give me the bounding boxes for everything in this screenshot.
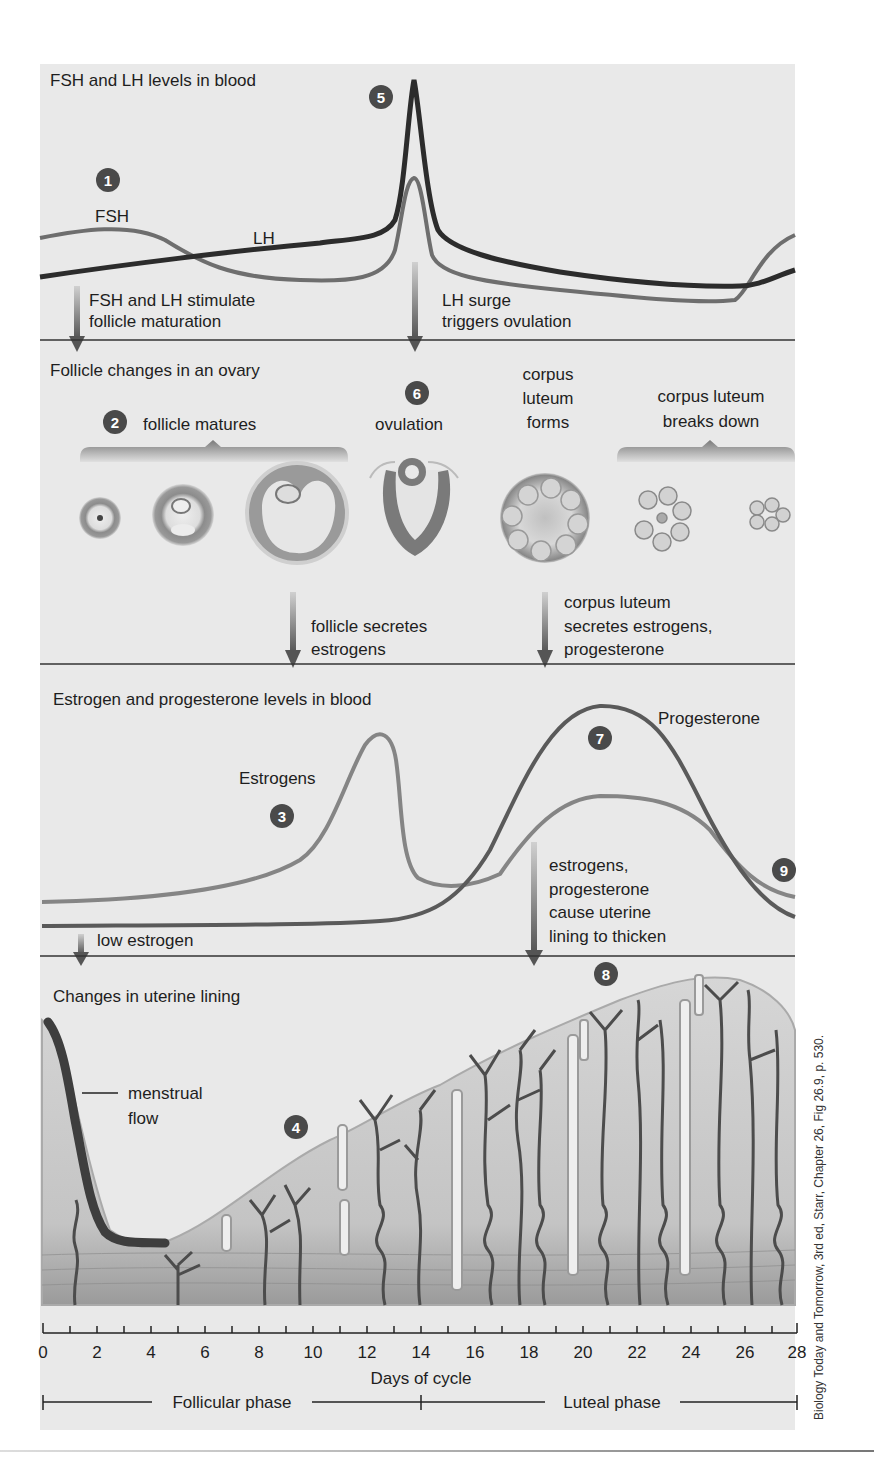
phase-bar xyxy=(43,1395,797,1410)
step-marker-8: 8 xyxy=(594,962,618,986)
lh-label: LH xyxy=(253,229,275,248)
bracket-follicle-matures xyxy=(80,440,348,462)
menstrual-label-1: menstrual xyxy=(128,1084,203,1103)
tick-label: 6 xyxy=(200,1343,209,1362)
low-estrogen-label: low estrogen xyxy=(97,931,193,950)
lh-surge-text-1: LH surge xyxy=(442,291,511,310)
step-marker-7: 7 xyxy=(588,726,612,750)
cl-breaks-label-1: corpus luteum xyxy=(658,387,765,406)
follicular-phase-label: Follicular phase xyxy=(172,1393,291,1412)
cl-forms-label-1: corpus xyxy=(522,365,573,384)
svg-text:2: 2 xyxy=(111,414,119,431)
luteal-phase-label: Luteal phase xyxy=(563,1393,660,1412)
step-marker-3: 3 xyxy=(270,804,294,828)
down-arrow-icon xyxy=(531,842,537,952)
step-marker-6: 6 xyxy=(405,381,429,405)
arrowhead-icon xyxy=(73,952,89,966)
arrowhead-icon xyxy=(285,650,301,668)
lh-surge-text-2: triggers ovulation xyxy=(442,312,571,331)
tick-label: 14 xyxy=(412,1343,431,1362)
fsh-lh-arrow-text-2: follicle maturation xyxy=(89,312,221,331)
down-arrow-icon xyxy=(74,286,80,338)
down-arrow-icon xyxy=(290,592,296,652)
ovary-title: Follicle changes in an ovary xyxy=(50,361,260,380)
menstrual-label-2: flow xyxy=(128,1109,159,1128)
progesterone-curve xyxy=(42,706,795,926)
thicken-text-2: progesterone xyxy=(549,880,649,899)
uterus-title: Changes in uterine lining xyxy=(53,987,240,1006)
tick-label: 12 xyxy=(358,1343,377,1362)
tick-label: 2 xyxy=(92,1343,101,1362)
down-arrow-icon xyxy=(542,592,548,652)
estrogens-label: Estrogens xyxy=(239,769,316,788)
figure-credit: Biology Today and Tomorrow, 3rd ed, Star… xyxy=(812,1035,826,1420)
follicle-secretes-text-2: estrogens xyxy=(311,640,386,659)
svg-text:7: 7 xyxy=(596,730,604,747)
tick-label: 0 xyxy=(38,1343,47,1362)
tick-label: 20 xyxy=(574,1343,593,1362)
tick-label: 22 xyxy=(628,1343,647,1362)
cl-secretes-text-1: corpus luteum xyxy=(564,593,671,612)
tick-label: 24 xyxy=(682,1343,701,1362)
arrowhead-icon xyxy=(525,950,543,966)
fsh-lh-title: FSH and LH levels in blood xyxy=(50,71,256,90)
step-marker-4: 4 xyxy=(284,1115,308,1139)
down-arrow-icon xyxy=(78,934,84,954)
step-marker-5: 5 xyxy=(369,85,393,109)
step-marker-9: 9 xyxy=(772,858,796,882)
follicle-matures-label: follicle matures xyxy=(143,415,256,434)
days-axis xyxy=(43,1323,797,1333)
svg-text:8: 8 xyxy=(602,966,610,983)
cl-secretes-text-2: secretes estrogens, xyxy=(564,617,712,636)
estrogens-curve xyxy=(42,734,795,902)
secondary-follicle xyxy=(152,484,214,546)
bottom-rule xyxy=(0,1450,874,1452)
tick-label: 28 xyxy=(788,1343,807,1362)
svg-text:3: 3 xyxy=(278,808,286,825)
tick-label: 16 xyxy=(466,1343,485,1362)
tick-label: 26 xyxy=(736,1343,755,1362)
svg-text:9: 9 xyxy=(780,862,788,879)
cl-forms-label-2: luteum xyxy=(522,389,573,408)
thicken-text-1: estrogens, xyxy=(549,856,628,875)
step-marker-2: 2 xyxy=(103,410,127,434)
hormones-title: Estrogen and progesterone levels in bloo… xyxy=(53,690,372,709)
arrowhead-icon xyxy=(407,336,423,352)
svg-text:4: 4 xyxy=(292,1119,301,1136)
cl-secretes-text-3: progesterone xyxy=(564,640,664,659)
thicken-text-3: cause uterine xyxy=(549,903,651,922)
cl-forms-label-3: forms xyxy=(527,413,570,432)
svg-text:5: 5 xyxy=(377,89,385,106)
step-marker-1: 1 xyxy=(96,168,120,192)
down-arrow-icon xyxy=(412,262,418,338)
tick-label: 18 xyxy=(520,1343,539,1362)
axis-title: Days of cycle xyxy=(370,1369,471,1388)
arrowhead-icon xyxy=(537,650,553,668)
corpus-albicans xyxy=(750,498,790,531)
bracket-cl-breaks-down xyxy=(617,440,795,462)
cl-breaks-label-2: breaks down xyxy=(663,412,759,431)
fsh-lh-arrow-text-1: FSH and LH stimulate xyxy=(89,291,255,310)
svg-text:1: 1 xyxy=(104,172,112,189)
ovulation-label: ovulation xyxy=(375,415,443,434)
svg-text:6: 6 xyxy=(413,385,421,402)
thicken-text-4: lining to thicken xyxy=(549,927,666,946)
follicle-secretes-text-1: follicle secretes xyxy=(311,617,427,636)
fsh-label: FSH xyxy=(95,207,129,226)
progesterone-label: Progesterone xyxy=(658,709,760,728)
menstrual-cycle-diagram: FSH and LH levels in blood FSH LH FSH an… xyxy=(0,0,874,1468)
tick-label: 8 xyxy=(254,1343,263,1362)
arrowhead-icon xyxy=(69,336,85,352)
tick-label: 10 xyxy=(304,1343,323,1362)
tick-label: 4 xyxy=(146,1343,155,1362)
degenerating-corpus-luteum xyxy=(635,487,691,551)
